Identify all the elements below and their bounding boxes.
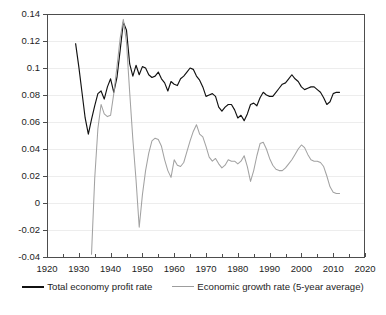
legend-item-profit: Total economy profit rate <box>22 282 152 292</box>
y-axis-tick-labels: -0.04-0.0200.020.040.060.080.10.120.14 <box>18 8 40 262</box>
svg-text:0.12: 0.12 <box>22 35 41 46</box>
svg-text:2010: 2010 <box>323 263 344 274</box>
svg-text:1990: 1990 <box>259 263 280 274</box>
svg-text:1980: 1980 <box>227 263 248 274</box>
svg-text:0.1: 0.1 <box>27 62 40 73</box>
svg-text:1970: 1970 <box>195 263 216 274</box>
svg-text:1940: 1940 <box>100 263 121 274</box>
legend-label-growth: Economic growth rate (5-year average) <box>197 282 363 292</box>
legend-item-growth: Economic growth rate (5-year average) <box>172 282 363 292</box>
svg-text:-0.02: -0.02 <box>18 224 40 235</box>
svg-text:1960: 1960 <box>164 263 185 274</box>
svg-text:0.14: 0.14 <box>22 8 41 19</box>
svg-text:1930: 1930 <box>68 263 89 274</box>
chart-legend: Total economy profit rate Economic growt… <box>0 282 386 292</box>
tick-marks-group <box>43 15 366 258</box>
svg-text:0: 0 <box>35 197 40 208</box>
svg-text:1920: 1920 <box>36 263 57 274</box>
svg-text:2000: 2000 <box>291 263 312 274</box>
data-series-group <box>76 19 340 254</box>
legend-label-profit: Total economy profit rate <box>47 282 152 292</box>
svg-text:0.06: 0.06 <box>22 116 41 127</box>
line-chart-plot: -0.04-0.0200.020.040.060.080.10.120.14 1… <box>0 0 386 315</box>
legend-line-swatch-profit <box>22 286 44 288</box>
svg-text:1950: 1950 <box>132 263 153 274</box>
x-axis-tick-labels: 1920193019401950196019701980199020002010… <box>36 263 375 274</box>
axis-frame <box>48 15 365 258</box>
svg-text:0.08: 0.08 <box>22 89 41 100</box>
chart-figure: -0.04-0.0200.020.040.060.080.10.120.14 1… <box>0 0 386 315</box>
svg-text:2020: 2020 <box>354 263 375 274</box>
legend-line-swatch-growth <box>172 286 194 287</box>
svg-text:0.04: 0.04 <box>22 143 41 154</box>
gridlines-group <box>47 15 365 231</box>
svg-text:0.02: 0.02 <box>22 170 41 181</box>
svg-text:-0.04: -0.04 <box>18 251 40 262</box>
